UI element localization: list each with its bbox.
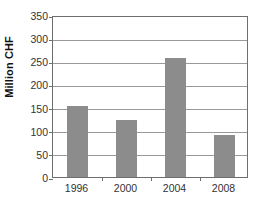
x-axis-tick-mark: [151, 177, 152, 181]
y-axis-tick-label: 0: [16, 172, 48, 184]
x-axis-tick-mark: [200, 177, 201, 181]
x-axis-tick-label: 2000: [114, 182, 137, 194]
x-axis-tick-labels: 1996200020042008: [52, 182, 248, 198]
y-axis-tick-label: 100: [16, 126, 48, 138]
y-axis-tick-label: 200: [16, 79, 48, 91]
x-axis-tick-mark: [102, 177, 103, 181]
y-axis-title: Million CHF: [2, 22, 16, 112]
x-axis-tick-label: 2008: [212, 182, 235, 194]
y-axis-tick-mark: [49, 179, 53, 180]
bar: [214, 135, 235, 177]
y-axis-tick-mark: [49, 155, 53, 156]
y-axis-tick-label: 150: [16, 103, 48, 115]
bar: [165, 58, 186, 177]
bar: [67, 106, 88, 177]
gridline: [53, 86, 247, 87]
y-axis-tick-mark: [49, 40, 53, 41]
gridline: [53, 63, 247, 64]
y-axis-tick-label: 250: [16, 56, 48, 68]
y-axis-tick-mark: [49, 17, 53, 18]
y-axis-tick-label: 350: [16, 10, 48, 22]
y-axis-tick-mark: [49, 109, 53, 110]
bar-chart: Million CHF 050100150200250300350 199620…: [0, 0, 258, 213]
x-axis-tick-label: 2004: [163, 182, 186, 194]
y-axis-tick-mark: [49, 86, 53, 87]
y-axis-tick-label: 300: [16, 33, 48, 45]
y-axis-tick-mark: [49, 132, 53, 133]
y-axis-tick-label: 50: [16, 149, 48, 161]
gridline: [53, 40, 247, 41]
plot-area: [52, 16, 248, 178]
x-axis-tick-label: 1996: [65, 182, 88, 194]
bar: [116, 120, 137, 177]
y-axis-tick-labels: 050100150200250300350: [16, 16, 48, 178]
y-axis-tick-mark: [49, 63, 53, 64]
